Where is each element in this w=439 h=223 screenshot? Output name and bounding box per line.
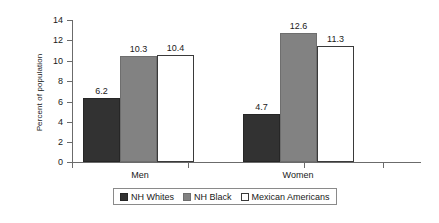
- y-tick-8: 8: [22, 77, 63, 86]
- bar-value-label: 4.7: [243, 102, 280, 112]
- bar-value-label: 10.4: [157, 43, 194, 53]
- legend-swatch-icon: [241, 193, 249, 201]
- y-axis-line: [72, 20, 73, 163]
- bar-value-label: 10.3: [120, 44, 157, 54]
- y-tick-label: 14: [23, 16, 63, 25]
- y-tick-label: 2: [23, 138, 63, 147]
- bar-men-nh-black: [120, 56, 157, 162]
- x-tick-mark: [383, 163, 384, 168]
- bar-women-nh-black: [280, 33, 317, 162]
- category-label-men: Men: [100, 170, 180, 181]
- y-tick-0: 0: [22, 158, 63, 167]
- y-tick-label: 10: [23, 57, 63, 66]
- y-tick-2: 2: [22, 138, 63, 147]
- bar-men-mexican-americans: [157, 55, 194, 162]
- legend-item-label: Mexican Americans: [252, 192, 330, 202]
- bar-women-nh-whites: [243, 114, 280, 162]
- x-tick-mark: [304, 163, 305, 168]
- bar-women-mexican-americans: [317, 46, 354, 162]
- y-tick-label: 12: [23, 36, 63, 45]
- legend: NH Whites NH Black Mexican Americans: [113, 188, 337, 205]
- legend-item-label: NH Black: [194, 192, 232, 202]
- x-tick-mark: [188, 163, 189, 168]
- y-tick-10: 10: [22, 57, 63, 66]
- y-tick-label: 6: [23, 98, 63, 107]
- bar-chart: Percent of population 14 12 10 8 6 4 2 0…: [0, 0, 439, 223]
- x-tick-mark: [72, 163, 73, 168]
- category-label-women: Women: [258, 170, 338, 181]
- legend-item-mexican-americans[interactable]: Mexican Americans: [241, 192, 330, 202]
- y-tick-label: 0: [23, 158, 63, 167]
- x-axis-line: [72, 162, 421, 163]
- legend-swatch-icon: [120, 193, 128, 201]
- y-tick-14: 14: [22, 16, 63, 25]
- bar-value-label: 11.3: [317, 34, 354, 44]
- legend-item-label: NH Whites: [131, 192, 174, 202]
- y-tick-label: 4: [23, 118, 63, 127]
- bar-value-label: 6.2: [83, 86, 120, 96]
- legend-item-nh-black[interactable]: NH Black: [183, 192, 232, 202]
- y-tick-label: 8: [23, 77, 63, 86]
- legend-item-nh-whites[interactable]: NH Whites: [120, 192, 174, 202]
- bar-value-label: 12.6: [280, 21, 317, 31]
- legend-swatch-icon: [183, 193, 191, 201]
- y-tick-12: 12: [22, 36, 63, 45]
- bar-men-nh-whites: [83, 98, 120, 162]
- y-tick-6: 6: [22, 98, 63, 107]
- y-tick-4: 4: [22, 118, 63, 127]
